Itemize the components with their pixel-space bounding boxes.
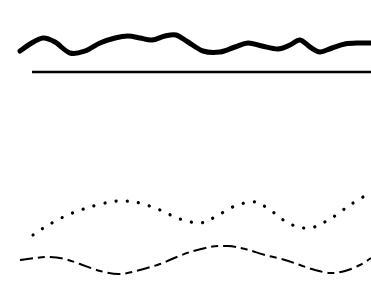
- line-styles-figure: [0, 0, 371, 287]
